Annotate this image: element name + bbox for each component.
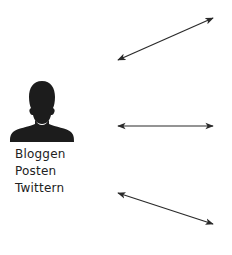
label-posten: Posten: [15, 163, 66, 180]
person-silhouette-icon: [9, 80, 75, 142]
activity-labels: Bloggen Posten Twittern: [15, 146, 66, 197]
label-twittern: Twittern: [15, 180, 66, 197]
arrow-lower: [118, 193, 213, 224]
arrow-upper: [118, 18, 213, 60]
label-bloggen: Bloggen: [15, 146, 66, 163]
